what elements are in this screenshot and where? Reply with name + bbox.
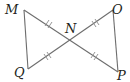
segment-mp	[24, 10, 118, 72]
label-p: P	[116, 68, 126, 82]
label-q: Q	[14, 65, 25, 80]
label-n: N	[64, 21, 77, 36]
label-o: O	[112, 2, 123, 17]
segment-mq	[24, 10, 28, 69]
tick-mark-mn	[45, 20, 52, 28]
label-m: M	[4, 2, 19, 17]
geometry-diagram: M N O Q P	[0, 0, 130, 82]
segment-op	[113, 10, 118, 72]
